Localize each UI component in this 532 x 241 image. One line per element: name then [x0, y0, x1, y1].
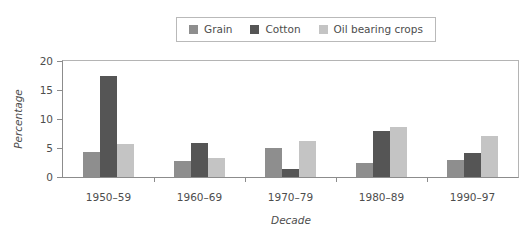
legend-swatch-icon [250, 25, 259, 34]
x-axis-tick [245, 177, 246, 182]
y-axis-tick-label: 0 [46, 171, 53, 183]
x-axis-title: Decade [271, 214, 311, 226]
y-axis-tick-label: 10 [40, 113, 53, 125]
legend-entry[interactable]: Cotton [250, 24, 300, 35]
plot-area: 051015201950–591960–691970–791980–891990… [62, 60, 519, 178]
y-axis-tick-label: 20 [40, 55, 53, 67]
legend-entry[interactable]: Grain [189, 24, 232, 35]
bar-chart-figure: GrainCottonOil bearing crops 05101520195… [0, 0, 532, 241]
bar [83, 152, 100, 177]
y-axis-tick-label: 15 [40, 84, 53, 96]
bar [191, 143, 208, 177]
bar [282, 169, 299, 177]
x-axis-tick [336, 177, 337, 182]
bar [481, 136, 498, 177]
legend-entry[interactable]: Oil bearing crops [319, 24, 423, 35]
y-axis-title: Percentage [12, 89, 24, 149]
x-axis-tick-label: 1950–59 [86, 191, 131, 203]
bar [447, 160, 464, 177]
bar [117, 144, 134, 177]
bar [299, 141, 316, 177]
y-axis-tick [57, 90, 63, 91]
y-axis-tick [57, 177, 63, 178]
legend-label: Cotton [265, 24, 300, 35]
x-axis-tick [154, 177, 155, 182]
y-axis-tick-label: 5 [46, 142, 53, 154]
bar [390, 127, 407, 177]
x-axis-tick-label: 1960–69 [177, 191, 222, 203]
bar [265, 148, 282, 177]
bar [373, 131, 390, 177]
legend-label: Oil bearing crops [334, 24, 423, 35]
y-axis-tick [57, 148, 63, 149]
bar [208, 158, 225, 177]
legend-swatch-icon [189, 25, 198, 34]
chart-legend: GrainCottonOil bearing crops [176, 17, 436, 42]
y-axis-tick [57, 61, 63, 62]
x-axis-tick-label: 1970–79 [268, 191, 313, 203]
x-axis-tick [427, 177, 428, 182]
legend-label: Grain [204, 24, 232, 35]
bar [100, 76, 117, 178]
bar [464, 153, 481, 177]
bar [356, 163, 373, 177]
legend-swatch-icon [319, 25, 328, 34]
x-axis-tick-label: 1990–97 [450, 191, 495, 203]
bar [174, 161, 191, 177]
x-axis-tick-label: 1980–89 [359, 191, 404, 203]
y-axis-tick [57, 119, 63, 120]
